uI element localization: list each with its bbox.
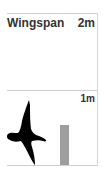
scale-label-1m: 1m [81,93,95,104]
wingspan-diagram: Wingspan 2m 1m [0,0,104,175]
scale-label-2m: 2m [78,16,95,30]
right-axis [97,13,98,166]
flying-bird-silhouette-icon [0,95,55,167]
chart-title: Wingspan [7,16,64,30]
wingspan-bar [60,125,69,165]
middle-gridline-1m [7,90,97,91]
top-gridline-2m [7,13,97,14]
